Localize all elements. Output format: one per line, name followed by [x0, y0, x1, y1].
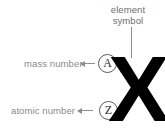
- atomic-notation-diagram: element symbol mass number A atomic numb…: [0, 0, 165, 128]
- mass-number-label: mass number: [24, 58, 83, 69]
- atomic-number-label: atomic number: [11, 105, 75, 116]
- element-symbol-glyph: X: [108, 44, 160, 128]
- element-symbol-label-line-1: element: [99, 4, 157, 15]
- element-symbol-label: element symbol: [99, 4, 157, 26]
- element-symbol-label-line-2: symbol: [99, 15, 157, 26]
- mass-number-arrow-head: [80, 61, 85, 67]
- atomic-number-arrow-head: [77, 108, 82, 114]
